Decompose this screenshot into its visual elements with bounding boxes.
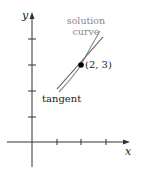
solution-curve-label: solution curve (66, 15, 106, 37)
y-axis-label: y (22, 10, 28, 21)
solution-label-line1: solution (66, 15, 106, 26)
point-marker (78, 62, 84, 68)
tangent-diagram: y x solution curve (2, 3) tangent (0, 0, 141, 179)
solution-label-line2: curve (66, 26, 106, 37)
x-axis-label: x (125, 146, 131, 157)
x-axis-arrow-icon (123, 140, 130, 145)
y-axis-arrow-icon (30, 12, 35, 19)
point-label: (2, 3) (85, 60, 112, 70)
tangent-label: tangent (42, 94, 81, 104)
